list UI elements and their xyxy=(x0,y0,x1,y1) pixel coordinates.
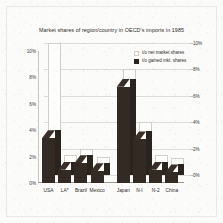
x-tick-label: Mexico xyxy=(89,188,104,193)
legend-label: t/o net market shares xyxy=(142,50,184,55)
y-tick-label-left: 8% xyxy=(29,75,36,80)
bar-segment-gained xyxy=(149,170,162,183)
y-tick-mark-right xyxy=(190,69,193,70)
chart-figure: Market shares of region/country in OECD'… xyxy=(0,0,223,223)
bar-side-face xyxy=(178,164,184,175)
y-tick-label-left: 6% xyxy=(29,101,36,106)
bar-segment-gained xyxy=(165,172,178,183)
y-axis-line xyxy=(38,51,39,183)
y-tick-label-right: 10% xyxy=(193,41,202,46)
bar-segment-gained xyxy=(133,139,146,183)
y-tick-label-left: 2% xyxy=(29,154,36,159)
x-tick-label: LA* xyxy=(61,188,69,193)
x-tick-label: N-I xyxy=(136,188,142,193)
bar-segment-gained xyxy=(117,87,130,183)
legend-item: t/o net market shares xyxy=(132,49,186,57)
legend-item: t/o gained mkt. shares xyxy=(132,57,186,65)
y-tick-label-left: 10% xyxy=(27,49,36,54)
x-tick-label: Japan xyxy=(117,188,130,193)
legend-label: t/o gained mkt. shares xyxy=(142,58,186,63)
y-tick-label-left: 0% xyxy=(29,181,36,186)
gridline xyxy=(44,69,190,70)
bar-segment-gained xyxy=(58,170,71,183)
bar-segment-gained xyxy=(91,171,104,183)
y-tick-label-right: 2% xyxy=(193,146,200,151)
y-tick-label-right: 6% xyxy=(193,93,200,98)
legend-swatch xyxy=(134,51,139,56)
legend-swatch xyxy=(134,59,139,64)
y-tick-label-right: 4% xyxy=(193,120,200,125)
chart-legend: t/o net market sharest/o gained mkt. sha… xyxy=(132,49,186,65)
x-axis-labels: USALA*BrazilMexicoJapanN-IN-2China xyxy=(38,188,190,200)
x-tick-label: N-2 xyxy=(152,188,160,193)
chart-canvas: 0%2%4%6%8%10% 0%2%4%6%8%10% USALA*Brazil… xyxy=(0,0,223,223)
y-tick-label-left: 4% xyxy=(29,128,36,133)
x-tick-label: Brazil xyxy=(75,188,87,193)
bar-segment-gained xyxy=(42,138,55,183)
y-tick-label-right: 8% xyxy=(193,67,200,72)
x-tick-label: USA xyxy=(44,188,54,193)
x-tick-label: China xyxy=(166,188,179,193)
y-tick-label-right: 0% xyxy=(193,173,200,178)
y-tick-mark-right xyxy=(190,122,193,123)
y-tick-mark-right xyxy=(190,43,193,44)
y-tick-mark-right xyxy=(190,175,193,176)
bar-side-face xyxy=(104,163,110,175)
y-tick-mark-right xyxy=(190,149,193,150)
gridline xyxy=(44,43,190,44)
bar-segment-gained xyxy=(74,163,87,183)
y-tick-mark-right xyxy=(190,96,193,97)
